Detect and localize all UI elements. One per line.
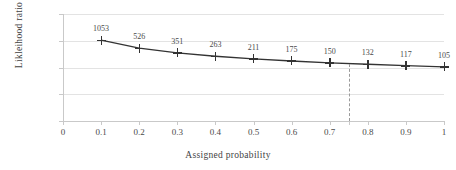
x-axis-title: Assigned probability xyxy=(0,150,456,160)
x-tick-label: 0.7 xyxy=(315,127,345,137)
x-tick-mark xyxy=(330,121,331,125)
x-tick-mark xyxy=(177,121,178,125)
x-tick-label: 0.3 xyxy=(162,127,192,137)
x-tick-mark xyxy=(139,121,140,125)
x-tick-mark xyxy=(101,121,102,125)
data-point-marker xyxy=(401,61,410,70)
x-tick-mark xyxy=(63,121,64,125)
data-point-label: 1053 xyxy=(81,24,121,33)
data-point-marker xyxy=(211,52,220,61)
data-point-marker xyxy=(135,44,144,53)
data-point-label: 150 xyxy=(310,47,350,56)
x-tick-mark xyxy=(444,121,445,125)
data-point-label: 351 xyxy=(157,37,197,46)
x-tick-mark xyxy=(368,121,369,125)
x-tick-mark-extra xyxy=(349,121,350,125)
data-point-label: 132 xyxy=(348,48,388,57)
data-point-label: 117 xyxy=(386,50,426,59)
x-tick-mark xyxy=(292,121,293,125)
x-tick-label: 0.6 xyxy=(277,127,307,137)
data-point-marker xyxy=(173,48,182,57)
data-point-marker xyxy=(287,56,296,65)
x-tick-mark xyxy=(406,121,407,125)
data-point-marker xyxy=(325,58,334,67)
data-point-marker xyxy=(440,62,449,71)
y-axis-title: Likleihood ratio xyxy=(14,0,24,90)
x-tick-label: 0.2 xyxy=(124,127,154,137)
x-tick-label: 1 xyxy=(429,127,456,137)
chart-container: Likleihood ratio 110100100010000 00.10.2… xyxy=(0,0,456,170)
data-point-label: 263 xyxy=(195,40,235,49)
x-tick-mark xyxy=(215,121,216,125)
x-tick-label: 0.5 xyxy=(239,127,269,137)
data-point-label: 175 xyxy=(272,45,312,54)
x-tick-mark xyxy=(254,121,255,125)
x-tick-label: 0.9 xyxy=(391,127,421,137)
x-tick-label: 0.1 xyxy=(86,127,116,137)
data-point-marker xyxy=(249,54,258,63)
clipped-chart-title xyxy=(150,0,450,3)
data-point-label: 105 xyxy=(424,51,456,60)
data-point-label: 526 xyxy=(119,32,159,41)
x-tick-label: 0.4 xyxy=(200,127,230,137)
data-point-marker xyxy=(363,60,372,69)
reference-line-075 xyxy=(349,64,350,121)
data-point-label: 211 xyxy=(234,43,274,52)
x-tick-label: 0.8 xyxy=(353,127,383,137)
data-point-marker xyxy=(97,36,106,45)
x-tick-label: 0 xyxy=(48,127,78,137)
